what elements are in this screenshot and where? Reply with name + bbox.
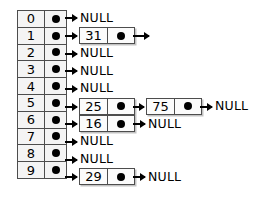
node-next-pointer: [108, 116, 134, 131]
table-row: 4: [18, 78, 67, 95]
bucket-index-9: 9: [18, 162, 45, 179]
arrow-bucket-7: [65, 141, 77, 143]
arrow-bucket-9: [65, 176, 77, 178]
node-next-pointer: [108, 28, 134, 43]
null-terminator-bucket-0: NULL: [80, 12, 113, 25]
table-row: 1: [18, 27, 67, 44]
null-terminator-bucket-4: NULL: [80, 82, 113, 95]
list-node-75: 75: [146, 98, 202, 115]
list-node-25: 25: [79, 98, 135, 115]
arrow-bucket-1: [65, 35, 77, 37]
bucket-index-8: 8: [18, 145, 45, 162]
pointer-dot-icon: [52, 99, 60, 107]
arrow-bucket-4: [65, 88, 77, 90]
pointer-dot-icon: [117, 173, 125, 181]
bucket-index-7: 7: [18, 128, 45, 145]
arrow-bucket-8: [65, 159, 77, 161]
null-terminator-bucket-7: NULL: [80, 135, 113, 148]
pointer-dot-icon: [52, 65, 60, 73]
bucket-pointer-5: [45, 94, 67, 111]
arrow-node-29-next: [133, 176, 145, 178]
null-terminator-bucket-8: NULL: [80, 153, 113, 166]
pointer-dot-icon: [52, 48, 60, 56]
bucket-pointer-3: [45, 61, 67, 78]
node-value: 16: [80, 116, 108, 131]
list-node-29: 29: [79, 168, 135, 185]
bucket-pointer-1: [45, 27, 67, 44]
bucket-array-table: 0 1 2 3 4 5 6: [17, 10, 67, 179]
pointer-dot-icon: [52, 15, 60, 23]
bucket-index-2: 2: [18, 44, 45, 61]
pointer-dot-icon: [117, 120, 125, 128]
bucket-pointer-2: [45, 44, 67, 61]
arrow-bucket-0: [65, 17, 77, 19]
arrow-bucket-2: [65, 53, 77, 55]
table-row: 5: [18, 94, 67, 111]
node-value: 75: [147, 99, 175, 114]
pointer-dot-icon: [52, 166, 60, 174]
node-value: 25: [80, 99, 108, 114]
table-row: 9: [18, 162, 67, 179]
pointer-dot-icon: [52, 82, 60, 90]
table-row: 6: [18, 111, 67, 128]
table-row: 8: [18, 145, 67, 162]
bucket-index-3: 3: [18, 61, 45, 78]
node-value: 31: [80, 28, 108, 43]
pointer-dot-icon: [52, 32, 60, 40]
arrow-node-75-next: [200, 106, 212, 108]
bucket-pointer-8: [45, 145, 67, 162]
pointer-dot-icon: [117, 102, 125, 110]
bucket-pointer-6: [45, 111, 67, 128]
table-row: 3: [18, 61, 67, 78]
arrow-node-25-next: [133, 106, 144, 108]
bucket-pointer-4: [45, 78, 67, 95]
bucket-pointer-9: [45, 162, 67, 179]
table-row: 2: [18, 44, 67, 61]
node-next-pointer: [108, 99, 134, 114]
arrow-node-31-next: [133, 35, 149, 37]
hash-table-diagram: 0 1 2 3 4 5 6: [0, 0, 265, 198]
arrow-node-16-next: [133, 123, 145, 125]
bucket-index-6: 6: [18, 111, 45, 128]
null-terminator-bucket-9: NULL: [148, 171, 181, 184]
pointer-dot-icon: [52, 116, 60, 124]
node-next-pointer: [108, 169, 134, 184]
list-node-31: 31: [79, 27, 135, 44]
null-terminator-bucket-3: NULL: [80, 65, 113, 78]
node-next-pointer: [175, 99, 201, 114]
arrow-bucket-3: [65, 70, 77, 72]
pointer-dot-icon: [52, 132, 60, 140]
bucket-pointer-7: [45, 128, 67, 145]
bucket-index-4: 4: [18, 78, 45, 95]
bucket-index-1: 1: [18, 27, 45, 44]
pointer-dot-icon: [184, 102, 192, 110]
null-terminator-bucket-6: NULL: [148, 118, 181, 131]
pointer-dot-icon: [52, 149, 60, 157]
pointer-dot-icon: [117, 32, 125, 40]
table-row: 0: [18, 11, 67, 28]
arrow-bucket-6: [65, 123, 77, 125]
arrow-bucket-5: [65, 106, 77, 108]
list-node-16: 16: [79, 115, 135, 132]
table-row: 7: [18, 128, 67, 145]
null-terminator-bucket-2: NULL: [80, 47, 113, 60]
bucket-index-0: 0: [18, 11, 45, 28]
node-value: 29: [80, 169, 108, 184]
bucket-pointer-0: [45, 11, 67, 28]
null-terminator-bucket-5: NULL: [215, 100, 248, 113]
bucket-index-5: 5: [18, 94, 45, 111]
